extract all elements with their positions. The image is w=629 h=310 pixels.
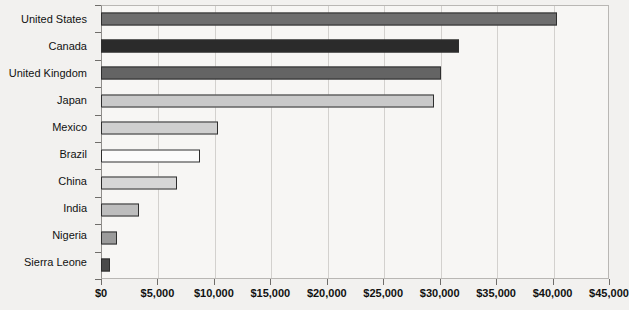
bar[interactable] bbox=[101, 94, 434, 107]
x-axis-label: $35,000 bbox=[476, 287, 516, 299]
x-axis-tick bbox=[383, 279, 384, 285]
x-axis-ticks bbox=[101, 279, 609, 286]
y-axis-label: Mexico bbox=[0, 113, 95, 140]
bar[interactable] bbox=[101, 122, 218, 135]
bar-row bbox=[101, 115, 609, 142]
x-axis-label: $20,000 bbox=[307, 287, 347, 299]
x-axis-tick-labels: $0$5,000$10,000$15,000$20,000$25,000$30,… bbox=[0, 287, 623, 307]
y-axis-label: China bbox=[0, 168, 95, 195]
x-axis-tick bbox=[440, 279, 441, 285]
x-axis-tick bbox=[609, 279, 610, 285]
bar[interactable] bbox=[101, 67, 441, 80]
bar[interactable] bbox=[101, 149, 200, 162]
y-axis-label: Nigeria bbox=[0, 222, 95, 249]
y-axis-category-labels: United StatesCanadaUnited KingdomJapanMe… bbox=[0, 5, 95, 279]
bar-row bbox=[101, 32, 609, 59]
y-axis-label: Canada bbox=[0, 32, 95, 59]
bar[interactable] bbox=[101, 40, 459, 53]
bar-row bbox=[101, 142, 609, 169]
bar-row bbox=[101, 169, 609, 196]
y-axis-label: Sierra Leone bbox=[0, 249, 95, 276]
bar-rows bbox=[101, 5, 609, 279]
bar-row bbox=[101, 252, 609, 279]
x-axis-label: $5,000 bbox=[141, 287, 175, 299]
x-axis-tick bbox=[327, 279, 328, 285]
bar[interactable] bbox=[101, 231, 117, 244]
x-axis-label: $15,000 bbox=[250, 287, 290, 299]
y-axis-label: India bbox=[0, 195, 95, 222]
y-axis-label: United Kingdom bbox=[0, 59, 95, 86]
x-axis-tick bbox=[214, 279, 215, 285]
y-axis-label: Japan bbox=[0, 86, 95, 113]
x-axis-tick bbox=[270, 279, 271, 285]
y-axis-label: Brazil bbox=[0, 140, 95, 167]
bar[interactable] bbox=[101, 259, 110, 272]
x-axis-tick bbox=[101, 279, 102, 285]
x-axis-label: $0 bbox=[95, 287, 107, 299]
x-axis-tick bbox=[553, 279, 554, 285]
bar-row bbox=[101, 224, 609, 251]
x-axis-tick bbox=[496, 279, 497, 285]
x-axis-tick bbox=[157, 279, 158, 285]
bar[interactable] bbox=[101, 12, 557, 25]
x-axis-label: $40,000 bbox=[533, 287, 573, 299]
x-axis-label: $10,000 bbox=[194, 287, 234, 299]
x-axis-label: $25,000 bbox=[363, 287, 403, 299]
x-axis-label: $30,000 bbox=[420, 287, 460, 299]
bar-row bbox=[101, 87, 609, 114]
bar-row bbox=[101, 60, 609, 87]
bar[interactable] bbox=[101, 177, 177, 190]
x-axis-label: $45,000 bbox=[589, 287, 629, 299]
bar[interactable] bbox=[101, 204, 139, 217]
y-axis-label: United States bbox=[0, 5, 95, 32]
bar-row bbox=[101, 5, 609, 32]
bar-row bbox=[101, 197, 609, 224]
